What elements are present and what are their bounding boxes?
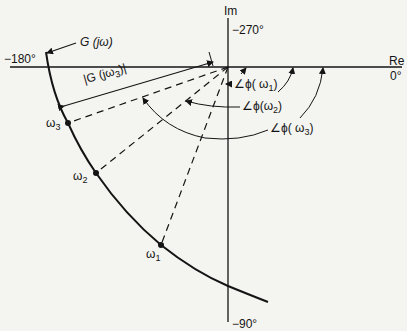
phase-arc-omega2 [278,68,293,92]
phase3-prefix: ∠ϕ( ω [270,121,304,135]
imag-axis-label: Im [224,5,237,17]
phase-arc-omega2-lower [186,101,240,107]
angle-right-label: 0° [390,70,401,82]
angle-top-label: −270° [232,24,264,36]
phase-arc-omega1 [241,68,246,74]
phase2-suffix: ) [278,99,282,113]
phase2-prefix: ∠ϕ(ω [242,99,273,113]
real-axis-label: Re [389,55,404,67]
phase-arc-omega3-right [300,68,323,118]
omega3-label: ω3 [46,117,60,132]
curve-label: G (jω) [80,36,113,48]
curve-label-leader [47,43,76,53]
phase-label-omega2: ∠ϕ(ω2) [242,100,282,115]
omega1-sub: 1 [155,253,160,263]
omega1-symbol: ω [146,247,155,261]
point-omega2 [93,170,99,176]
phase3-suffix: ) [309,121,313,135]
radius-omega2 [96,67,228,173]
omega3-sub: 3 [55,122,60,132]
point-omega3 [65,120,71,126]
angle-bottom-label: −90° [232,318,257,330]
phase1-prefix: ∠ϕ( ω [234,77,268,91]
omega2-symbol: ω [73,169,82,183]
phase1-suffix: ) [273,77,277,91]
magnitude-tick [209,52,213,66]
omega1-label: ω1 [146,248,160,263]
omega2-sub: 2 [82,175,87,185]
polar-plot-canvas [0,0,407,331]
omega2-label: ω2 [73,170,87,185]
phase-label-omega3: ∠ϕ( ω3) [270,122,313,137]
angle-left-label: −180° [4,53,36,65]
phase-label-omega1: ∠ϕ( ω1) [234,78,277,93]
omega3-symbol: ω [46,116,55,130]
